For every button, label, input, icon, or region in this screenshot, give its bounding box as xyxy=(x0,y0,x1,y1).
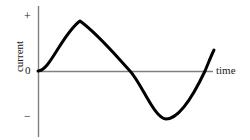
x-axis-label: time xyxy=(216,65,236,76)
y-axis-tick-positive: + xyxy=(24,10,31,22)
current-waveform-curve xyxy=(38,21,214,119)
y-axis-tick-negative: − xyxy=(24,110,31,122)
y-axis-tick-zero: 0 xyxy=(25,65,31,76)
sine-wave-chart: + 0 − current time xyxy=(0,0,250,140)
y-axis-label: current xyxy=(14,29,25,85)
chart-plot-area xyxy=(0,0,250,140)
